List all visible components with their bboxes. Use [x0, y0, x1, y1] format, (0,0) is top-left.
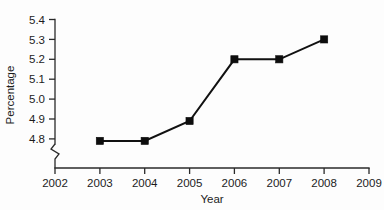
y-tick-label: 5.2 — [29, 53, 45, 65]
y-tick-label: 5.1 — [29, 73, 45, 85]
y-tick-label: 4.9 — [29, 113, 45, 125]
data-point-marker — [96, 137, 103, 144]
chart-figure: 5.4 5.3 5.2 5.1 5.0 4.9 4.8 Percentage 2… — [0, 0, 384, 210]
y-tick-labels: 5.4 5.3 5.2 5.1 5.0 4.9 4.8 — [29, 14, 46, 145]
x-tick-marks — [55, 168, 369, 174]
x-tick-label: 2005 — [177, 177, 203, 189]
series-line-percentage — [100, 39, 324, 140]
y-tick-label: 5.4 — [29, 14, 46, 26]
data-point-marker — [186, 117, 193, 124]
y-tick-label: 4.8 — [29, 133, 45, 145]
x-axis-title: Year — [200, 193, 223, 205]
x-tick-label: 2009 — [356, 177, 382, 189]
data-point-marker — [231, 56, 238, 63]
y-axis-break-icon — [51, 144, 59, 168]
data-point-marker — [276, 56, 283, 63]
y-tick-label: 5.0 — [29, 93, 45, 105]
x-tick-label: 2002 — [42, 177, 68, 189]
x-tick-label: 2003 — [87, 177, 113, 189]
x-tick-labels: 2002 2003 2004 2005 2006 2007 2008 2009 — [42, 177, 382, 189]
x-tick-label: 2004 — [132, 177, 158, 189]
x-tick-label: 2008 — [311, 177, 337, 189]
data-point-marker — [321, 36, 328, 43]
line-chart: 5.4 5.3 5.2 5.1 5.0 4.9 4.8 Percentage 2… — [0, 0, 384, 210]
y-axis-title: Percentage — [4, 66, 16, 125]
y-tick-marks — [49, 20, 55, 139]
data-point-marker — [141, 137, 148, 144]
x-tick-label: 2006 — [222, 177, 248, 189]
x-tick-label: 2007 — [267, 177, 293, 189]
y-tick-label: 5.3 — [29, 34, 45, 46]
